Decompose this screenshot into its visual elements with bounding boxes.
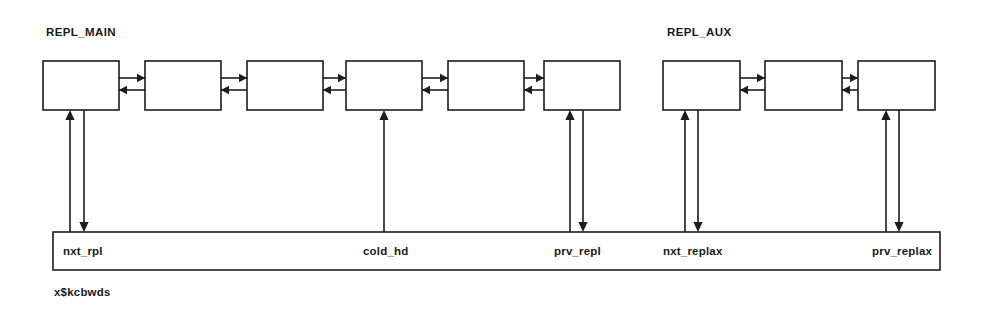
pointer-field-label: prv_replax — [872, 245, 933, 257]
pointer-layer — [65, 110, 903, 232]
arrow-left-icon — [119, 86, 127, 94]
arrow-down-icon — [693, 222, 702, 232]
arrow-up-icon — [565, 110, 574, 120]
buffer-node — [858, 61, 935, 110]
arrow-up-icon — [881, 110, 890, 120]
arrow-left-icon — [422, 86, 430, 94]
pointer-connector — [65, 110, 88, 232]
buffer-node — [43, 61, 119, 110]
working-set-bar — [53, 232, 940, 270]
buffer-node — [145, 61, 221, 110]
group-title-repl-aux: REPL_AUX — [667, 26, 732, 38]
arrow-down-icon — [578, 222, 587, 232]
arrow-right-icon — [137, 74, 145, 82]
diagram-svg: REPL_MAIN REPL_AUX nxt_rplcold_hdprv_rep… — [0, 0, 985, 312]
pointer-field-label: nxt_replax — [663, 245, 723, 257]
buffer-node — [346, 61, 422, 110]
arrow-up-icon — [680, 110, 689, 120]
buffer-node — [544, 61, 620, 110]
pointer-connector — [565, 110, 587, 232]
peer-link — [422, 74, 448, 94]
arrow-down-icon — [894, 222, 903, 232]
arrow-right-icon — [440, 74, 448, 82]
peer-link — [740, 74, 765, 94]
pointer-field-label: nxt_rpl — [63, 245, 103, 257]
pointer-connector — [680, 110, 702, 232]
arrow-right-icon — [536, 74, 544, 82]
buffer-node — [663, 61, 740, 110]
pointer-connector — [379, 110, 388, 232]
arrow-up-icon — [379, 110, 388, 120]
arrow-left-icon — [524, 86, 532, 94]
arrow-down-icon — [79, 222, 88, 232]
arrow-left-icon — [323, 86, 331, 94]
buffer-node — [765, 61, 842, 110]
arrow-right-icon — [338, 74, 346, 82]
buffer-node-layer — [43, 61, 935, 110]
peer-link — [842, 74, 858, 94]
group-title-repl-main: REPL_MAIN — [46, 26, 116, 38]
arrow-left-icon — [740, 86, 748, 94]
structure-label: x$kcbwds — [54, 286, 111, 298]
pointer-field-label: prv_repl — [554, 245, 601, 257]
arrow-left-icon — [842, 86, 850, 94]
arrow-right-icon — [757, 74, 765, 82]
pointer-connector — [881, 110, 903, 232]
peer-link — [323, 74, 346, 94]
buffer-node — [448, 61, 524, 110]
diagram-canvas: REPL_MAIN REPL_AUX nxt_rplcold_hdprv_rep… — [0, 0, 985, 312]
arrow-right-icon — [850, 74, 858, 82]
buffer-node — [247, 61, 323, 110]
arrow-up-icon — [65, 110, 74, 120]
peer-link — [221, 74, 247, 94]
working-set-bar-layer — [53, 232, 940, 270]
arrow-left-icon — [221, 86, 229, 94]
peer-link — [524, 74, 544, 94]
pointer-field-label: cold_hd — [363, 245, 409, 257]
group-title-layer: REPL_MAIN REPL_AUX — [46, 26, 732, 38]
peer-link — [119, 74, 145, 94]
arrow-right-icon — [239, 74, 247, 82]
